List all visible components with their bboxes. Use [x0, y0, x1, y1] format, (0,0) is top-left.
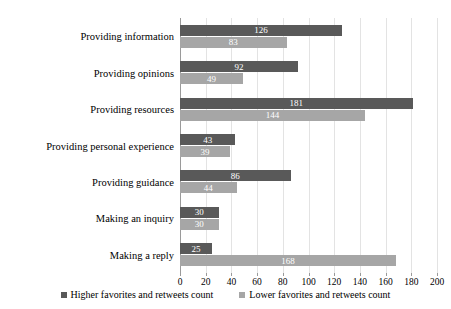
axis-tick-mark [283, 273, 284, 276]
bar-value-label: 168 [281, 256, 295, 265]
legend-label: Higher favorites and retweets count [71, 289, 214, 300]
bar-slot: 30 [180, 219, 437, 230]
legend-item[interactable]: Higher favorites and retweets count [61, 289, 214, 300]
axis-tick-mark [206, 273, 207, 276]
axis-tick-label: 140 [353, 277, 367, 287]
bar-value-label: 126 [254, 26, 268, 35]
bar-slot: 43 [180, 134, 437, 145]
bar-slot: 86 [180, 170, 437, 181]
bar-slot: 25 [180, 243, 437, 254]
axis-tick-label: 180 [404, 277, 418, 287]
bar-slot: 44 [180, 182, 437, 193]
bar-value-label: 25 [192, 244, 201, 253]
bar-chart: Providing informationProviding opinionsP… [0, 0, 451, 309]
gridline [437, 18, 438, 273]
bar-slot: 39 [180, 146, 437, 157]
bar-value-label: 30 [195, 220, 204, 229]
bar-value-label: 92 [235, 62, 244, 71]
bar-group: 12683 [180, 24, 437, 48]
bar-slot: 168 [180, 255, 437, 266]
axis-tick-mark [231, 273, 232, 276]
category-label: Providing information [80, 31, 174, 42]
bar-slot: 83 [180, 37, 437, 48]
category-label: Providing personal experience [46, 140, 174, 151]
axis-tick-mark [257, 273, 258, 276]
legend-label: Lower favorites and retweets count [249, 289, 390, 300]
axis-tick-mark [360, 273, 361, 276]
axis-tick-mark [411, 273, 412, 276]
chart-legend: Higher favorites and retweets countLower… [0, 289, 451, 300]
bar-value-label: 39 [201, 147, 210, 156]
bar-slot: 144 [180, 110, 437, 121]
legend-item[interactable]: Lower favorites and retweets count [239, 289, 390, 300]
plot-area: 12683924918114443398644303025168 [180, 18, 437, 273]
bar-group: 9249 [180, 61, 437, 85]
bar-value-label: 43 [203, 135, 212, 144]
axis-tick-label: 100 [301, 277, 315, 287]
bar-value-label: 30 [195, 208, 204, 217]
bar-value-label: 49 [207, 74, 216, 83]
bar-slot: 92 [180, 61, 437, 72]
axis-tick-label: 0 [178, 277, 183, 287]
bar-group: 3030 [180, 206, 437, 230]
category-label: Providing opinions [94, 67, 174, 78]
category-label: Making an inquiry [96, 213, 174, 224]
axis-tick-label: 80 [278, 277, 288, 287]
bar-slot: 30 [180, 207, 437, 218]
axis-tick-mark [180, 273, 181, 276]
bar-rows: 12683924918114443398644303025168 [180, 18, 437, 273]
axis-tick-label: 20 [201, 277, 211, 287]
value-axis: 020406080100120140160180200 [180, 273, 437, 289]
bar-slot: 49 [180, 73, 437, 84]
axis-tick-mark [437, 273, 438, 276]
bar-group: 181144 [180, 97, 437, 121]
axis-tick-label: 200 [430, 277, 444, 287]
bar-value-label: 181 [290, 99, 304, 108]
bar-slot: 181 [180, 98, 437, 109]
category-label: Providing guidance [92, 176, 174, 187]
bar-group: 4339 [180, 134, 437, 158]
axis-tick-mark [386, 273, 387, 276]
category-axis-labels: Providing informationProviding opinionsP… [0, 18, 174, 273]
bar-value-label: 44 [204, 183, 213, 192]
bar-group: 8644 [180, 170, 437, 194]
axis-tick-mark [309, 273, 310, 276]
axis-tick-label: 60 [252, 277, 262, 287]
axis-tick-label: 120 [327, 277, 341, 287]
axis-tick-label: 160 [378, 277, 392, 287]
bar-value-label: 86 [231, 171, 240, 180]
category-label: Making a reply [110, 249, 174, 260]
bar-slot: 126 [180, 25, 437, 36]
category-label: Providing resources [90, 104, 174, 115]
legend-swatch-icon [239, 292, 245, 298]
legend-swatch-icon [61, 292, 67, 298]
axis-tick-mark [334, 273, 335, 276]
bar-value-label: 83 [229, 38, 238, 47]
bar-group: 25168 [180, 243, 437, 267]
axis-tick-label: 40 [227, 277, 237, 287]
bar-value-label: 144 [266, 111, 280, 120]
